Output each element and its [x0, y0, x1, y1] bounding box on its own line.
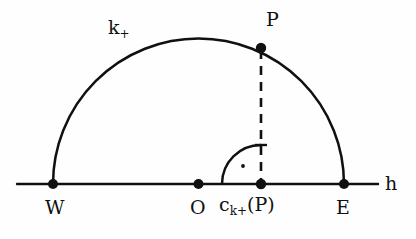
- point-foot-of-perpendicular: [256, 179, 266, 189]
- arc-k-plus: [53, 39, 344, 185]
- arc-label-subscript: +: [120, 27, 130, 41]
- point-E: [339, 179, 349, 189]
- arc-label-base: k: [108, 16, 120, 38]
- foot-label-base: c: [219, 193, 230, 215]
- foot-label-suffix: (P): [247, 193, 275, 215]
- point-W: [48, 179, 58, 189]
- point-O: [194, 179, 204, 189]
- point-P: [256, 43, 266, 53]
- line-label-h: h: [385, 174, 397, 193]
- geometry-diagram: k+ P W O ck+(P) E h: [0, 0, 416, 239]
- point-label-foot-of-perpendicular: ck+(P): [219, 195, 275, 214]
- point-label-W: W: [45, 198, 65, 217]
- point-label-E: E: [336, 198, 350, 217]
- point-label-P: P: [266, 10, 279, 29]
- right-angle-arc: [222, 145, 261, 184]
- point-label-O: O: [190, 198, 206, 217]
- arc-label-k-plus: k+: [108, 18, 130, 37]
- right-angle-dot: [241, 164, 245, 168]
- foot-label-subscript: k+: [230, 204, 247, 218]
